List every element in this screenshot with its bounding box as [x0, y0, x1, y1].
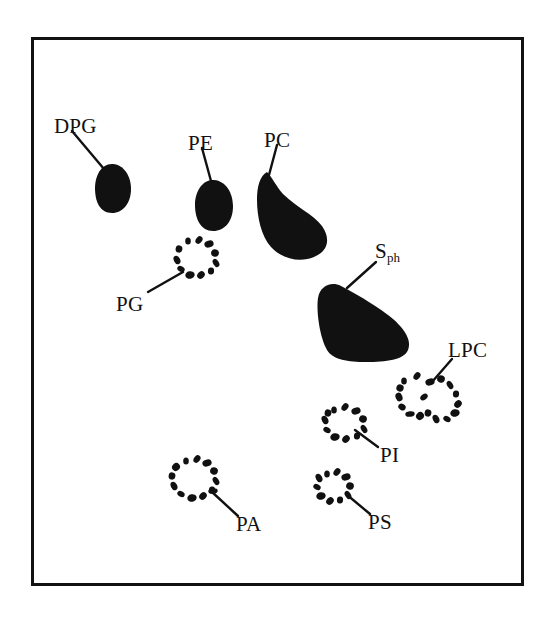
pad-dot	[175, 245, 183, 253]
pad-label-text: PI	[380, 443, 399, 467]
dotted-pad-PS	[312, 467, 355, 507]
pad-dot	[183, 457, 189, 464]
pad-dot	[202, 458, 213, 467]
pad-dot	[196, 270, 207, 281]
pad-label-text: LPC	[448, 338, 487, 362]
pad-dot	[211, 476, 220, 486]
pad-label-text: PE	[188, 131, 213, 155]
pad-dot	[176, 490, 185, 498]
pad-dot	[424, 409, 432, 417]
pad-dot	[204, 239, 215, 248]
pad-dot	[414, 410, 425, 421]
pad-dot	[168, 472, 176, 480]
digital-pad-DPG	[95, 164, 131, 213]
pad-dot	[324, 470, 330, 477]
pad-label-PS: PS	[368, 512, 392, 533]
digital-pad-PC	[257, 172, 327, 260]
dotted-pad-LPC	[394, 371, 463, 425]
pad-dot	[351, 406, 362, 415]
pad-dot	[210, 248, 220, 258]
pad-dot	[345, 481, 355, 491]
pad-label-PI: PI	[380, 445, 399, 466]
digital-pad-PE	[195, 180, 233, 231]
metacarpal-pad-Sph	[317, 284, 409, 362]
pad-dot	[325, 496, 336, 507]
pad-dot	[445, 380, 454, 390]
pad-dot	[401, 377, 407, 384]
Sph-leader	[347, 262, 376, 288]
pad-dot	[209, 466, 219, 476]
pad-label-PE: PE	[188, 133, 213, 154]
pad-label-Sph: Sph	[375, 241, 400, 262]
pad-label-text: PC	[264, 128, 290, 152]
pad-dot	[412, 371, 422, 381]
pad-label-PC: PC	[264, 130, 290, 151]
pad-dot	[431, 414, 441, 425]
dotted-pads-group	[168, 235, 463, 507]
dotted-pad-PA	[168, 454, 221, 503]
pad-dot	[324, 409, 332, 417]
pad-dot	[211, 258, 220, 268]
pad-dot	[453, 390, 460, 398]
PS-leader	[346, 494, 370, 514]
pad-dot	[450, 408, 461, 417]
pad-label-text: PG	[116, 292, 143, 316]
PG-leader	[148, 272, 183, 292]
pad-label-LPC: LPC	[448, 340, 487, 361]
pad-dot	[419, 392, 429, 402]
pad-dot	[185, 270, 196, 279]
pad-label-subscript: ph	[387, 250, 400, 265]
pad-dot	[187, 493, 198, 502]
pad-label-DPG: DPG	[54, 116, 97, 137]
pad-dot	[358, 414, 368, 424]
pad-dot	[453, 399, 464, 410]
pad-label-text: S	[375, 239, 387, 263]
pad-dot	[394, 392, 404, 403]
pad-dot	[194, 235, 204, 245]
dotted-pad-PI	[320, 402, 369, 445]
pad-label-PA: PA	[236, 514, 261, 535]
pad-dot	[442, 415, 451, 423]
figure-root: DPGPEPCPGSphLPCPIPAPS	[0, 0, 551, 617]
pad-dot	[314, 473, 324, 484]
pad-dot	[322, 426, 331, 434]
pad-label-text: DPG	[54, 114, 97, 138]
pad-dot	[198, 491, 209, 502]
pad-dot	[192, 454, 202, 464]
pad-dot	[208, 267, 215, 275]
pad-dot	[169, 481, 179, 492]
pad-dot	[340, 402, 350, 412]
pad-dot	[331, 406, 337, 413]
pad-label-text: PS	[368, 510, 392, 534]
pad-dot	[330, 432, 341, 441]
pad-dot	[397, 402, 407, 411]
paw-pad-diagram	[0, 0, 551, 617]
pad-dot	[316, 491, 327, 500]
pad-dot	[332, 467, 342, 477]
pad-dot	[395, 384, 404, 393]
pad-dot	[337, 496, 344, 504]
solid-pads-group	[95, 164, 409, 362]
PA-leader	[212, 492, 238, 516]
pad-dot	[341, 472, 352, 481]
pad-dot	[405, 411, 415, 418]
pad-dot	[170, 461, 181, 472]
pad-label-PG: PG	[116, 294, 143, 315]
pad-label-text: PA	[236, 512, 261, 536]
pad-dot	[185, 237, 191, 244]
pad-dot	[359, 424, 368, 434]
pad-dot	[312, 483, 321, 491]
pad-dot	[172, 255, 182, 266]
pad-dot	[341, 434, 352, 445]
